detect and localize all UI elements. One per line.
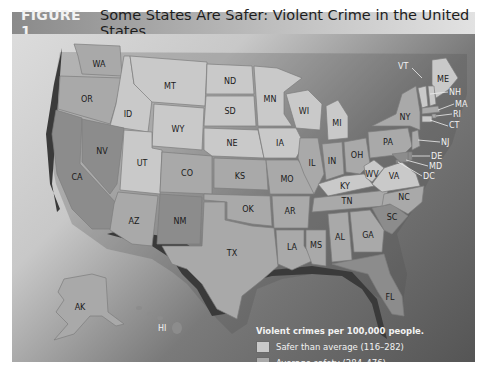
svg-text:OR: OR [81,95,93,104]
state-AL[interactable]: AL [328,212,352,262]
svg-text:MI: MI [332,119,341,128]
svg-text:HI: HI [158,324,166,333]
legend-label-safer: Safer than average (116–282) [276,342,404,352]
svg-text:MA: MA [455,100,468,109]
svg-text:AL: AL [335,233,345,242]
state-NE[interactable]: NE [204,128,264,158]
svg-text:TX: TX [226,249,238,258]
state-AR[interactable]: AR [272,196,310,228]
svg-text:UT: UT [137,159,148,168]
legend-swatch-safer [256,341,270,353]
svg-text:MD: MD [429,162,442,171]
us-map: WA OR CA ID NV MT WY UT AZ CO NM ND SD N… [12,34,475,362]
svg-text:IN: IN [328,157,336,166]
svg-text:NM: NM [174,217,187,226]
legend-swatch-average [256,357,270,362]
legend-title: Violent crimes per 100,000 people. [256,326,450,336]
svg-text:LA: LA [287,243,298,252]
svg-text:MO: MO [280,175,293,184]
svg-text:WI: WI [299,107,309,116]
figure-title-bar: FIGURE 1 Some States Are Safer: Violent … [12,12,475,34]
legend-label-average: Average safety (284–476) [276,358,386,362]
state-HI[interactable]: HI [136,306,182,334]
state-AK[interactable]: AK [54,274,124,340]
state-WA[interactable]: WA [74,44,122,76]
svg-text:DC: DC [423,172,435,181]
state-CO[interactable]: CO [160,152,212,194]
svg-text:AR: AR [284,207,295,216]
svg-text:NC: NC [398,193,410,202]
svg-text:SC: SC [387,213,398,222]
state-KS[interactable]: KS [214,158,268,190]
svg-text:WY: WY [172,125,185,134]
svg-text:TN: TN [341,197,353,206]
svg-text:GA: GA [362,231,374,240]
svg-text:NE: NE [226,139,237,148]
svg-text:NY: NY [400,113,411,122]
svg-text:VT: VT [398,62,408,71]
svg-text:OK: OK [242,205,254,214]
svg-text:ME: ME [437,75,449,84]
svg-text:FL: FL [385,293,395,302]
svg-text:IA: IA [276,139,284,148]
svg-text:NH: NH [449,88,461,97]
svg-text:AK: AK [75,303,86,312]
state-CT[interactable] [422,116,432,122]
svg-text:KS: KS [235,172,245,181]
svg-text:ID: ID [124,110,133,119]
state-DE[interactable] [408,152,412,160]
svg-text:RI: RI [453,110,461,119]
state-IN[interactable]: IN [322,142,344,180]
svg-text:PA: PA [383,138,393,147]
state-NM[interactable]: NM [157,194,202,244]
svg-text:VA: VA [389,172,400,181]
svg-text:MN: MN [264,95,277,104]
legend-item-safer: Safer than average (116–282) [256,341,450,353]
state-IA[interactable]: IA [258,128,304,158]
svg-text:SD: SD [224,107,235,116]
svg-text:MT: MT [164,82,176,91]
svg-text:IL: IL [309,159,316,168]
svg-text:WV: WV [365,170,379,179]
state-SD[interactable]: SD [204,96,256,126]
state-ND[interactable]: ND [206,64,254,94]
svg-text:CO: CO [181,169,193,178]
map-legend: Violent crimes per 100,000 people. Safer… [256,326,450,362]
us-map-svg: WA OR CA ID NV MT WY UT AZ CO NM ND SD N… [12,34,475,362]
state-WY[interactable]: WY [152,104,204,150]
svg-text:CT: CT [449,121,460,130]
svg-text:ND: ND [224,77,236,86]
svg-text:CA: CA [71,173,83,182]
svg-text:NJ: NJ [441,138,449,147]
figure-frame: FIGURE 1 Some States Are Safer: Violent … [12,12,475,362]
state-RI[interactable] [432,114,436,118]
svg-text:OH: OH [351,151,363,160]
svg-text:AZ: AZ [129,217,140,226]
svg-text:WA: WA [93,60,106,69]
svg-text:DE: DE [431,152,442,161]
svg-text:KY: KY [340,182,350,191]
svg-text:NV: NV [96,147,108,156]
svg-text:MS: MS [310,241,322,250]
legend-item-average: Average safety (284–476) [256,357,450,362]
